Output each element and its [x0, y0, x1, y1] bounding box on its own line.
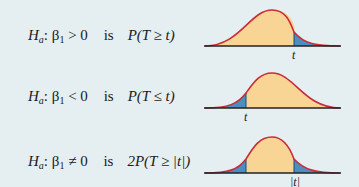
h-subscript: a [39, 160, 44, 171]
is-word: is [104, 88, 114, 105]
t-distribution-two-tail: |t| [200, 126, 359, 187]
is-word: is [103, 153, 113, 170]
h-symbol: H [28, 153, 39, 169]
probability-expression: 2P(T ≥ |t|) [127, 153, 190, 169]
relation: < 0 [64, 88, 87, 104]
curve-body-fill-left [205, 10, 294, 46]
probability-expression: P(T ≤ t) [128, 88, 175, 104]
t-label: t [244, 110, 248, 124]
is-word: is [104, 27, 114, 44]
probability-expression: P(T ≥ t) [128, 27, 175, 43]
h-subscript: a [39, 95, 44, 106]
formula-not-equal: Ha: β1 ≠ 0 is2P(T ≥ |t|) [28, 153, 190, 171]
formula-greater: Ha: β1 > 0 isP(T ≥ t) [28, 27, 175, 45]
relation: ≠ 0 [64, 153, 87, 169]
h-subscript: a [39, 34, 44, 45]
t-distribution-left-tail: t [200, 62, 359, 124]
h-symbol: H [28, 88, 39, 104]
formula-less: Ha: β1 < 0 isP(T ≤ t) [28, 88, 175, 106]
t-distribution-right-tail: t [200, 0, 359, 62]
relation: > 0 [64, 27, 87, 43]
abs-t-label: |t| [290, 175, 300, 187]
t-label: t [292, 48, 296, 62]
h-symbol: H [28, 27, 39, 43]
curve-body-fill [246, 137, 294, 173]
curve-body-fill [246, 73, 340, 108]
